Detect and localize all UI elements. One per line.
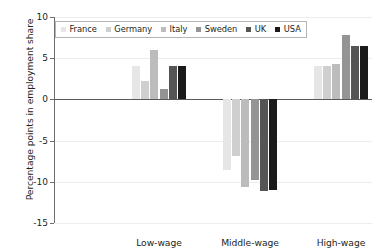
bar	[223, 99, 231, 170]
x-tick-label: High-wage	[317, 237, 366, 248]
legend-label: Sweden	[205, 24, 238, 34]
plot-area: 1050-5-10-15 Low-wageMiddle-wageHigh-wag…	[54, 17, 372, 223]
x-tick-label: Low-wage	[136, 237, 182, 248]
bar	[141, 81, 149, 99]
legend-swatch-icon	[161, 27, 166, 32]
y-tick-label: 0	[42, 94, 48, 104]
legend-swatch-icon	[246, 27, 251, 32]
legend-label: France	[70, 24, 97, 34]
bar	[351, 46, 359, 100]
legend-item-italy[interactable]: Italy	[161, 24, 187, 34]
bar-group-high-wage	[314, 17, 368, 223]
legend-swatch-icon	[106, 27, 111, 32]
legend-swatch-icon	[61, 27, 66, 32]
legend-label: UK	[255, 24, 266, 34]
bar	[169, 66, 177, 100]
legend-item-france[interactable]: France	[61, 24, 97, 34]
y-tick-label: -10	[33, 177, 48, 187]
y-tick-label: 5	[42, 53, 48, 63]
gridline	[55, 223, 372, 224]
bar	[332, 64, 340, 99]
bar	[314, 66, 322, 100]
legend-label: USA	[284, 24, 301, 34]
x-tick-label: Middle-wage	[221, 237, 279, 248]
legend-swatch-icon	[275, 27, 280, 32]
y-tick-mark	[50, 223, 54, 224]
bar	[269, 99, 277, 190]
bar	[251, 99, 259, 180]
bar	[323, 66, 331, 100]
legend-swatch-icon	[196, 27, 201, 32]
bar	[132, 66, 140, 99]
legend-label: Germany	[114, 24, 152, 34]
y-axis-spine	[54, 17, 55, 223]
y-tick-label: 10	[37, 12, 48, 22]
legend-item-germany[interactable]: Germany	[106, 24, 152, 34]
bar-chart: Percentage points in employment share 10…	[0, 0, 377, 249]
bar	[178, 66, 186, 100]
y-tick-label: -5	[39, 136, 48, 146]
y-tick-mark	[50, 99, 54, 100]
bar	[260, 99, 268, 190]
y-tick-mark	[50, 17, 54, 18]
legend-item-sweden[interactable]: Sweden	[196, 24, 237, 34]
y-tick-mark	[50, 141, 54, 142]
bar-group-low-wage	[132, 17, 186, 223]
legend-item-uk[interactable]: UK	[246, 24, 266, 34]
bar	[342, 35, 350, 99]
legend-item-usa[interactable]: USA	[275, 24, 301, 34]
bar	[150, 50, 158, 99]
y-tick-mark	[50, 58, 54, 59]
y-tick-mark	[50, 182, 54, 183]
legend: FranceGermanyItalySwedenUKUSA	[55, 21, 307, 38]
y-tick-label: -15	[33, 218, 48, 228]
bar	[160, 89, 168, 100]
bar	[360, 46, 368, 100]
legend-label: Italy	[170, 24, 188, 34]
bar-group-middle-wage	[223, 17, 277, 223]
bar	[241, 99, 249, 186]
bar	[232, 99, 240, 156]
